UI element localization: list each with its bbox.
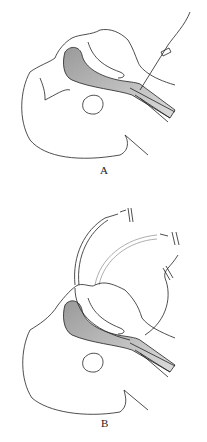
panel-a-illustration — [22, 12, 190, 158]
endotracheal-tube — [75, 218, 108, 285]
endotracheal-tube-alt — [95, 235, 157, 285]
airway-shaded — [63, 47, 175, 118]
guidewire-a — [140, 12, 190, 90]
airway-shaded-b — [63, 301, 175, 372]
panel-label-a: A — [100, 164, 108, 176]
panel-label-b: B — [101, 417, 108, 429]
retrograde-intubation-figure — [0, 0, 207, 442]
needle-hub-a — [161, 48, 171, 56]
panel-b-illustration — [23, 208, 179, 414]
